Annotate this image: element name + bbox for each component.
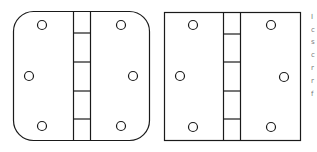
screw-hole [117, 21, 126, 30]
screw-hole [189, 123, 198, 132]
screw-hole [267, 21, 276, 30]
screw-hole [189, 21, 198, 30]
rounded-corner-hinge [14, 12, 150, 141]
screw-hole [38, 122, 47, 131]
cropped-text-fragment: r [311, 64, 317, 73]
screw-hole [176, 72, 185, 81]
screw-hole [117, 122, 126, 131]
cropped-text-fragment: I [311, 13, 317, 22]
screw-hole [25, 72, 34, 81]
screw-hole [129, 72, 138, 81]
screw-hole [280, 73, 289, 82]
square-corner-hinge [165, 13, 301, 141]
screw-hole [267, 123, 276, 132]
cropped-text-fragment: r [311, 77, 317, 86]
hinges-diagram [0, 0, 317, 152]
cropped-text-fragment: f [311, 90, 317, 99]
cropped-text-fragment: c [311, 51, 317, 60]
screw-hole [38, 21, 47, 30]
cropped-text-fragment: c [311, 26, 317, 35]
cropped-text-fragment: s [311, 38, 317, 47]
